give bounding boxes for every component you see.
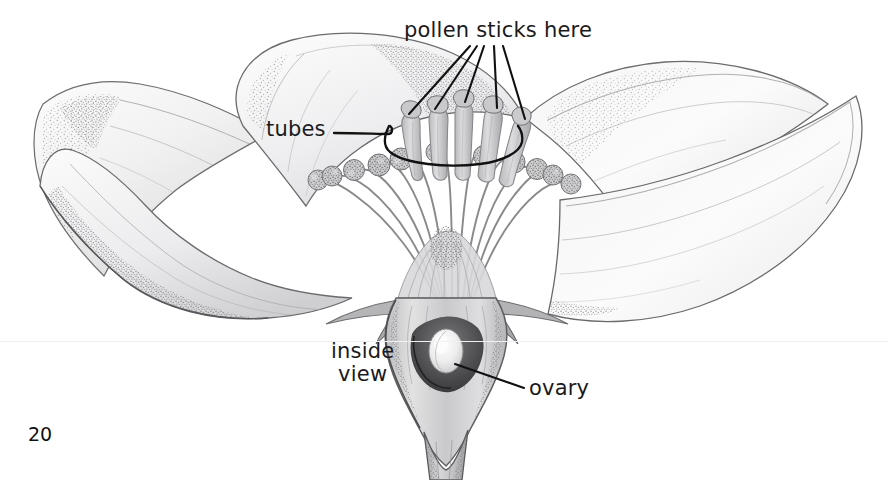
scan-artifact-line — [0, 341, 889, 342]
label-tubes: tubes — [266, 118, 326, 141]
label-inside-view: insideview — [331, 340, 394, 386]
label-inside-line2: view — [331, 363, 394, 386]
flower-illustration — [0, 0, 889, 480]
page-canvas: pollen sticks here tubes insideview ovar… — [0, 0, 889, 480]
label-ovary: ovary — [529, 377, 589, 400]
label-inside-line1: inside — [331, 339, 394, 363]
label-pollen-sticks-here: pollen sticks here — [404, 19, 592, 42]
page-number: 20 — [28, 423, 52, 445]
